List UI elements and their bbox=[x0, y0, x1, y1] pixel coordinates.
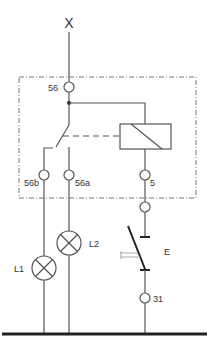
terminal-56b-icon bbox=[39, 170, 49, 180]
lamp-l1-icon bbox=[32, 256, 56, 280]
terminal-5-icon bbox=[140, 170, 150, 180]
terminal-5-label: 5 bbox=[150, 178, 155, 188]
switch-e-label: E bbox=[164, 247, 170, 257]
terminal-31-label: 31 bbox=[153, 294, 163, 304]
terminal-31-icon bbox=[140, 293, 150, 303]
wire-56b-contact bbox=[44, 148, 53, 170]
external-terminal-icon bbox=[140, 202, 150, 212]
relay-coil-icon bbox=[120, 124, 171, 149]
terminal-56a-icon bbox=[64, 170, 74, 180]
terminal-56a-label: 56a bbox=[75, 178, 90, 188]
terminal-56b-label: 56b bbox=[24, 178, 39, 188]
relay-schematic: X 56 56b 56a 5 L2 bbox=[0, 0, 209, 351]
lamp-l2-label: L2 bbox=[89, 239, 99, 249]
wire-to-coil bbox=[69, 103, 145, 124]
terminal-56-icon bbox=[64, 82, 74, 92]
lamp-l1-label: L1 bbox=[14, 264, 24, 274]
lamp-l2-icon bbox=[57, 231, 81, 255]
supply-label: X bbox=[64, 15, 74, 31]
terminal-56-label: 56 bbox=[48, 83, 58, 93]
